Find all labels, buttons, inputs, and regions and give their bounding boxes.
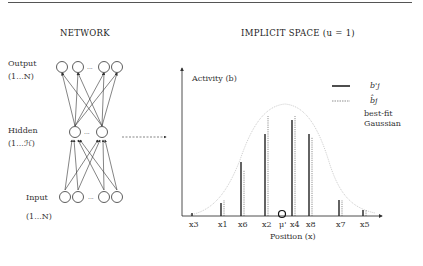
mu-marker xyxy=(279,211,286,218)
legend-curve-label-1: best-fit xyxy=(364,109,392,119)
category-label: x4 xyxy=(290,220,300,230)
dashed-bars xyxy=(224,116,366,216)
gaussian-curve xyxy=(190,104,375,215)
solid-bars xyxy=(192,120,363,216)
input-to-hidden-connections xyxy=(65,140,117,190)
category-label: x8 xyxy=(306,220,316,230)
legend-curve-label-2: Gaussian xyxy=(364,119,401,129)
y-axis-label: Activity (b) xyxy=(192,74,237,84)
x-axis-label: Position (x) xyxy=(270,232,316,242)
mu-label: μ' xyxy=(279,220,286,230)
legend-solid-label: b'j xyxy=(370,81,380,91)
hidden-to-output-connections xyxy=(62,73,117,126)
category-label: x2 xyxy=(262,220,272,230)
category-label: x1 xyxy=(218,220,228,230)
category-label: x3 xyxy=(189,220,199,230)
svg-text:...: ... xyxy=(88,193,94,200)
category-label: x7 xyxy=(336,220,346,230)
category-label: x5 xyxy=(360,220,370,230)
svg-text:...: ... xyxy=(84,128,90,135)
category-label: x6 xyxy=(238,220,248,230)
legend-dashed-label: b̂j xyxy=(370,96,378,106)
svg-text:...: ... xyxy=(87,63,93,70)
